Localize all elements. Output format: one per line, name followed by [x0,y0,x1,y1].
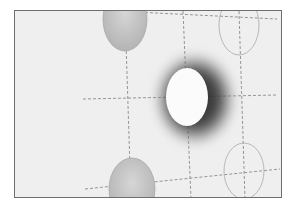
ellipse-bottom-right [224,143,264,198]
ellipse-center [166,68,208,126]
ellipse-top-left [103,11,147,51]
ellipse-grid-photo [14,10,282,198]
ellipse-bottom-left [109,158,155,198]
ellipse-grid-graphic [15,11,282,198]
